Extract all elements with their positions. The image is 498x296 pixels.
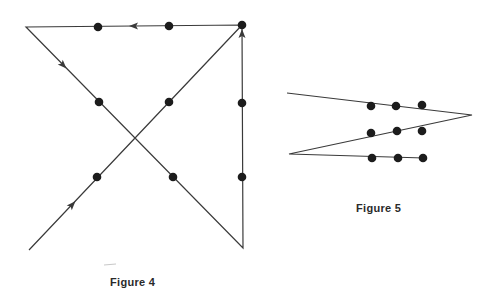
grid-dot — [93, 173, 102, 182]
figure-4-caption: Figure 4 — [110, 276, 155, 288]
grid-dot — [238, 99, 247, 108]
grid-dot — [394, 154, 403, 163]
grid-dot — [393, 127, 402, 136]
grid-dot — [367, 129, 376, 138]
figure-4-drawing — [26, 21, 246, 250]
diagram-canvas — [0, 0, 498, 296]
grid-dot — [95, 98, 104, 107]
grid-dot — [238, 173, 247, 182]
figure-5-caption: Figure 5 — [356, 202, 401, 214]
grid-dot — [165, 98, 174, 107]
grid-dot — [169, 173, 178, 182]
grid-dot — [367, 102, 376, 111]
scan-artifact-mark — [104, 264, 116, 265]
grid-dot — [418, 127, 427, 136]
grid-dot — [419, 154, 428, 163]
solution-path — [287, 93, 472, 158]
grid-dot — [94, 23, 103, 32]
grid-dot — [165, 22, 174, 31]
solution-path — [26, 25, 243, 250]
grid-dot — [368, 154, 377, 163]
grid-dot — [238, 21, 247, 30]
grid-dot — [418, 101, 427, 110]
figure-5-drawing — [287, 93, 472, 162]
grid-dot — [392, 102, 401, 111]
